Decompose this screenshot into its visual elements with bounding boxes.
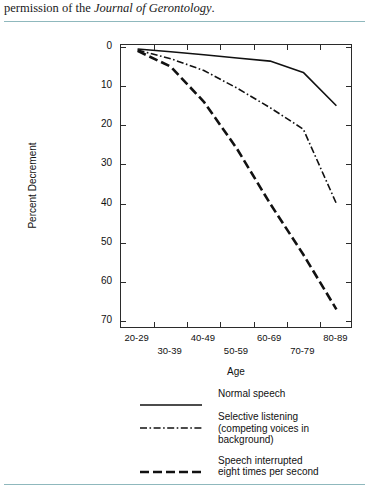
series-line	[138, 50, 337, 204]
series-line	[138, 51, 337, 309]
dash-dot-line-swatch	[140, 416, 202, 420]
legend-label: Selective listening(competing voices inb…	[218, 411, 365, 446]
y-axis-tick	[121, 321, 126, 322]
y-axis-tick-label: 30	[101, 158, 112, 168]
y-axis-tick-label: 60	[101, 276, 112, 286]
x-axis-tick	[154, 322, 155, 327]
plot-area	[120, 44, 352, 328]
y-axis-tick	[346, 204, 351, 205]
x-axis-title: Age	[120, 366, 352, 377]
legend-item: Selective listening(competing voices inb…	[140, 411, 365, 446]
caption-suffix: .	[212, 1, 215, 15]
y-axis-tick-label: 20	[101, 119, 112, 129]
x-axis-tick-label: 30-39	[158, 345, 182, 356]
x-axis-tick-labels: 20-2930-3940-4950-5960-6970-7980-89	[0, 330, 369, 364]
y-axis-tick-label: 50	[101, 237, 112, 247]
figure-credit-caption: permission of the Journal of Gerontology…	[4, 1, 364, 16]
y-axis-tick	[121, 47, 126, 48]
x-axis-tick	[187, 322, 188, 327]
divider-top	[4, 21, 365, 22]
x-axis-tick	[287, 322, 288, 327]
x-axis-tick	[220, 45, 221, 50]
line-chart-figure: Percent Decrement 010203040506070 20-293…	[0, 24, 369, 482]
x-axis-tick	[187, 45, 188, 50]
y-axis-tick	[121, 282, 126, 283]
x-axis-tick-label: 50-59	[224, 345, 248, 356]
x-axis-tick-label: 20-29	[124, 332, 148, 343]
legend-label: Speech interruptedeight times per second	[218, 455, 365, 478]
x-axis-tick-label: 80-89	[323, 332, 347, 343]
x-axis-tick-label: 40-49	[191, 332, 215, 343]
y-axis-tick-label: 40	[101, 198, 112, 208]
y-axis-tick	[121, 164, 126, 165]
y-axis-tick	[346, 243, 351, 244]
y-axis-tick	[346, 164, 351, 165]
x-axis-tick	[320, 322, 321, 327]
y-axis: Percent Decrement 010203040506070	[0, 44, 118, 328]
caption-prefix: permission of the	[4, 1, 94, 15]
y-axis-tick	[346, 86, 351, 87]
y-axis-tick	[346, 321, 351, 322]
x-axis-tick	[287, 45, 288, 50]
x-axis-tick	[254, 45, 255, 50]
x-axis-tick	[320, 45, 321, 50]
y-axis-title: Percent Decrement	[27, 126, 38, 246]
chart-legend: Normal speechSelective listening(competi…	[140, 388, 365, 487]
solid-line-swatch	[140, 393, 202, 397]
y-axis-tick	[121, 204, 126, 205]
legend-item: Normal speech	[140, 388, 365, 402]
legend-label: Normal speech	[218, 388, 365, 400]
y-axis-tick	[346, 47, 351, 48]
x-axis-tick	[154, 45, 155, 50]
y-axis-tick	[121, 243, 126, 244]
legend-item: Speech interruptedeight times per second	[140, 455, 365, 478]
y-axis-tick	[121, 125, 126, 126]
x-axis-tick	[254, 322, 255, 327]
x-axis-tick-label: 70-79	[290, 345, 314, 356]
y-axis-tick	[121, 86, 126, 87]
y-axis-tick-label: 70	[101, 315, 112, 325]
y-axis-tick	[346, 282, 351, 283]
y-axis-tick-label: 10	[101, 80, 112, 90]
dashed-line-swatch	[140, 460, 202, 464]
data-series-group	[121, 45, 353, 329]
y-axis-tick-label: 0	[106, 41, 112, 51]
x-axis-tick-label: 60-69	[257, 332, 281, 343]
y-axis-tick	[346, 125, 351, 126]
caption-journal-name: Journal of Gerontology	[94, 1, 212, 15]
x-axis-tick	[220, 322, 221, 327]
